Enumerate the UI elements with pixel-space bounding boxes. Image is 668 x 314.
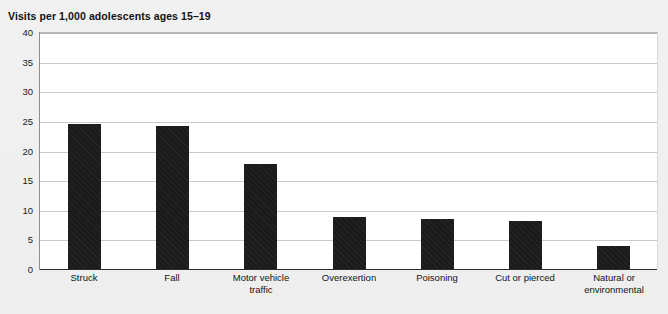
y-tick-label: 25 xyxy=(22,116,33,127)
bar xyxy=(509,221,542,269)
y-tick-label: 10 xyxy=(22,205,33,216)
gridline-0 xyxy=(40,269,657,270)
x-tick-label: Struck xyxy=(40,272,128,284)
x-tick-label: Poisoning xyxy=(393,272,481,284)
bar xyxy=(597,246,630,269)
bar xyxy=(68,124,101,269)
bar xyxy=(244,164,277,269)
y-tick-label: 20 xyxy=(22,146,33,157)
y-tick-label: 30 xyxy=(22,86,33,97)
y-tick-label: 40 xyxy=(22,27,33,38)
y-tick-label: 0 xyxy=(28,264,33,275)
bars-layer xyxy=(40,33,657,269)
y-tick-label: 5 xyxy=(28,234,33,245)
chart-title: Visits per 1,000 adolescents ages 15–19 xyxy=(8,10,211,22)
x-tick-label: Overexertion xyxy=(305,272,393,284)
bar xyxy=(421,219,454,269)
x-tick-label: Natural or environmental xyxy=(570,272,658,295)
plot-area xyxy=(40,32,658,269)
y-tick-label: 15 xyxy=(22,175,33,186)
x-axis-labels: StruckFallMotor vehicle trafficOverexert… xyxy=(40,272,658,312)
bar-chart-figure: Visits per 1,000 adolescents ages 15–19 … xyxy=(0,0,668,314)
y-tick-label: 35 xyxy=(22,57,33,68)
x-tick-label: Fall xyxy=(128,272,216,284)
bar xyxy=(333,217,366,269)
bar xyxy=(156,126,189,269)
x-tick-label: Cut or pierced xyxy=(481,272,569,284)
x-tick-label: Motor vehicle traffic xyxy=(217,272,305,295)
y-axis: 0510152025303540 xyxy=(0,32,38,269)
y-axis-spine xyxy=(39,32,40,270)
